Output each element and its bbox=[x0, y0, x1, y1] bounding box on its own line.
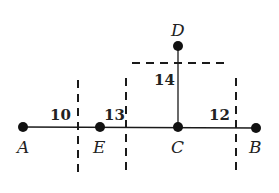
label-b: B bbox=[248, 137, 262, 157]
distance-a-e: 10 bbox=[50, 106, 71, 124]
distance-e-c: 13 bbox=[104, 106, 125, 124]
point-c bbox=[173, 122, 183, 132]
label-d: D bbox=[170, 20, 185, 40]
distance-c-d: 14 bbox=[154, 71, 175, 89]
label-c: C bbox=[171, 137, 184, 157]
distance-c-b: 12 bbox=[209, 106, 230, 124]
point-d bbox=[173, 41, 183, 51]
geometry-diagram: A E C B D 10 13 14 12 bbox=[0, 0, 279, 193]
label-a: A bbox=[15, 137, 29, 157]
point-a bbox=[18, 122, 28, 132]
point-b bbox=[251, 123, 261, 133]
segment-a-b bbox=[23, 127, 256, 128]
label-e: E bbox=[92, 137, 106, 157]
